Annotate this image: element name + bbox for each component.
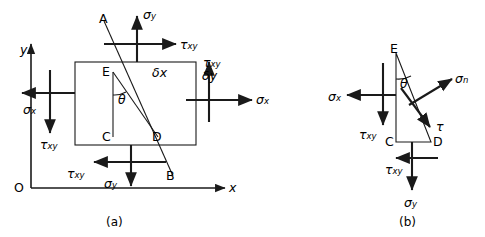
wedge-triangle-ecd [396,53,431,142]
tau-symbol: τ [180,37,188,52]
point-label-d-b: D [433,134,443,149]
axis-label-y: y [20,42,27,57]
sigma-symbol: σ [256,92,264,107]
sigma-sub: x [31,106,36,116]
tau-sub: xy [367,131,377,141]
sigma-symbol: σ [328,89,336,104]
stress-label-sigma-x-left: σx [23,99,36,118]
sigma-symbol: σ [143,7,151,22]
sigma-sub: x [336,93,341,103]
point-label-e-b: E [390,41,398,56]
panel-b-stress-label-sigma-x: σx [328,86,341,105]
delta-x-sub: x [160,65,167,80]
panel-b-stress-label-tau-xy-bottom: τxy [385,159,403,178]
delta-x-symbol: δ [152,65,160,80]
tau-sub: xy [48,141,58,151]
stress-label-tau-xy-bottom: τxy [67,163,85,182]
tau-sub: xy [188,41,198,51]
point-label-c-a: C [102,129,111,144]
stress-label-tau-xy-top: τxy [180,34,198,53]
dimension-label-delta-x: δx [152,62,167,81]
tau-symbol: τ [359,127,367,142]
sigma-sub: x [264,96,269,106]
sigma-sub: y [151,11,156,21]
axis-label-x: x [229,180,236,195]
sigma-n-sub: n [463,75,468,85]
stress-element-rectangle [75,62,196,145]
sigma-symbol: σ [23,102,31,117]
stress-label-tau-xy-left: τxy [40,134,58,153]
caption-panel-b: (b) [399,215,416,229]
stress-label-tau-xy-right: τxy [203,52,221,71]
tau-sub: xy [211,59,221,69]
panel-b-stress-label-sigma-y: σy [404,192,417,211]
top-face-stress-arrows [104,16,176,62]
angle-label-theta-b: θ [400,76,408,91]
tau-symbol: τ [385,162,393,177]
stress-label-sigma-y-top: σy [143,4,156,23]
figure-canvas: y x O A B E C D θ δx δy σy τxy τxy σx σx… [0,0,485,237]
sigma-sub: y [112,180,117,190]
sigma-symbol: σ [455,71,463,86]
sigma-symbol: σ [104,176,112,191]
point-label-b: B [166,168,175,183]
panel-b-stress-label-sigma-n: σn [455,68,468,87]
caption-panel-a: (a) [106,215,123,229]
tau-symbol: τ [203,55,211,70]
panel-b-stress-label-tau: τ [436,119,444,134]
point-label-e-a: E [102,64,110,79]
point-label-d-a: D [152,129,162,144]
panel-b-left-stress-arrows [347,63,396,125]
sigma-symbol: σ [404,195,412,210]
stress-label-sigma-x-right: σx [256,89,269,108]
tau-sub: xy [393,166,403,176]
stress-label-sigma-y-bottom: σy [104,173,117,192]
panel-b-stress-label-tau-xy-left: τxy [359,124,377,143]
tau-symbol: τ [67,166,75,181]
axis-origin-label: O [14,180,24,195]
tau-symbol: τ [40,137,48,152]
point-label-a: A [99,11,108,26]
point-label-c-b: C [385,134,394,149]
angle-label-theta-a: θ [118,92,126,107]
sigma-sub: y [412,199,417,209]
tau-sub: xy [75,170,85,180]
